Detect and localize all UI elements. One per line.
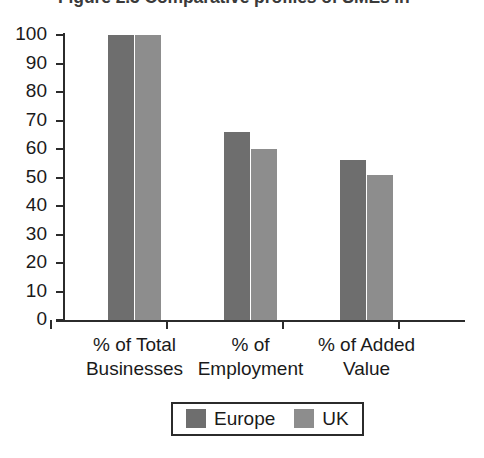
plot-area: 1009080706050403020100 — [63, 35, 465, 320]
y-axis-tick: 80 — [56, 91, 63, 93]
x-axis-category-label-line: % of Added — [297, 333, 437, 357]
y-axis-tick-label: 50 — [26, 167, 47, 186]
y-axis-tick: 30 — [56, 234, 63, 236]
y-axis-tick-label: 70 — [26, 110, 47, 129]
legend-swatch — [294, 409, 314, 428]
legend-entry: UK — [294, 409, 348, 428]
bar-group — [108, 35, 161, 320]
y-axis-tick-label: 0 — [36, 309, 47, 328]
y-axis-tick: 20 — [56, 262, 63, 264]
bar-group — [224, 35, 277, 320]
y-axis-tick: 100 — [56, 34, 63, 36]
legend-entry: Europe — [186, 409, 275, 428]
x-axis-category-label-line: Value — [297, 357, 437, 381]
bar — [224, 132, 250, 320]
y-axis-tick: 90 — [56, 63, 63, 65]
y-axis-tick-label: 60 — [26, 138, 47, 157]
x-axis-tick — [282, 320, 284, 329]
x-axis-tick — [398, 320, 400, 329]
y-axis-tick-label: 90 — [26, 53, 47, 72]
y-axis-tick: 10 — [56, 291, 63, 293]
y-axis-tick: 60 — [56, 148, 63, 150]
bar — [135, 35, 161, 320]
y-axis-tick-label: 20 — [26, 252, 47, 271]
y-axis-tick-label: 40 — [26, 195, 47, 214]
y-axis-tick: 0 — [56, 319, 63, 321]
y-axis-tick: 70 — [56, 120, 63, 122]
legend-label: UK — [322, 409, 348, 428]
y-axis-tick: 40 — [56, 205, 63, 207]
bar — [367, 175, 393, 320]
bar — [251, 149, 277, 320]
y-axis-line — [63, 33, 65, 322]
y-axis-tick-label: 10 — [26, 281, 47, 300]
chart-legend: EuropeUK — [171, 402, 364, 436]
x-axis-category-label: % of AddedValue — [297, 333, 437, 381]
x-axis-line — [56, 320, 465, 322]
x-axis-tick — [50, 320, 52, 329]
legend-label: Europe — [214, 409, 275, 428]
x-axis-tick — [166, 320, 168, 329]
bar-group — [340, 35, 393, 320]
bar — [108, 35, 134, 320]
y-axis-tick-label: 80 — [26, 81, 47, 100]
legend-swatch — [186, 409, 206, 428]
y-axis-tick-label: 30 — [26, 224, 47, 243]
bar — [340, 160, 366, 320]
y-axis-tick: 50 — [56, 177, 63, 179]
y-axis-tick-label: 100 — [15, 24, 47, 43]
chart-title: Figure 2.3 Comparative profiles of SMEs … — [58, 0, 484, 11]
